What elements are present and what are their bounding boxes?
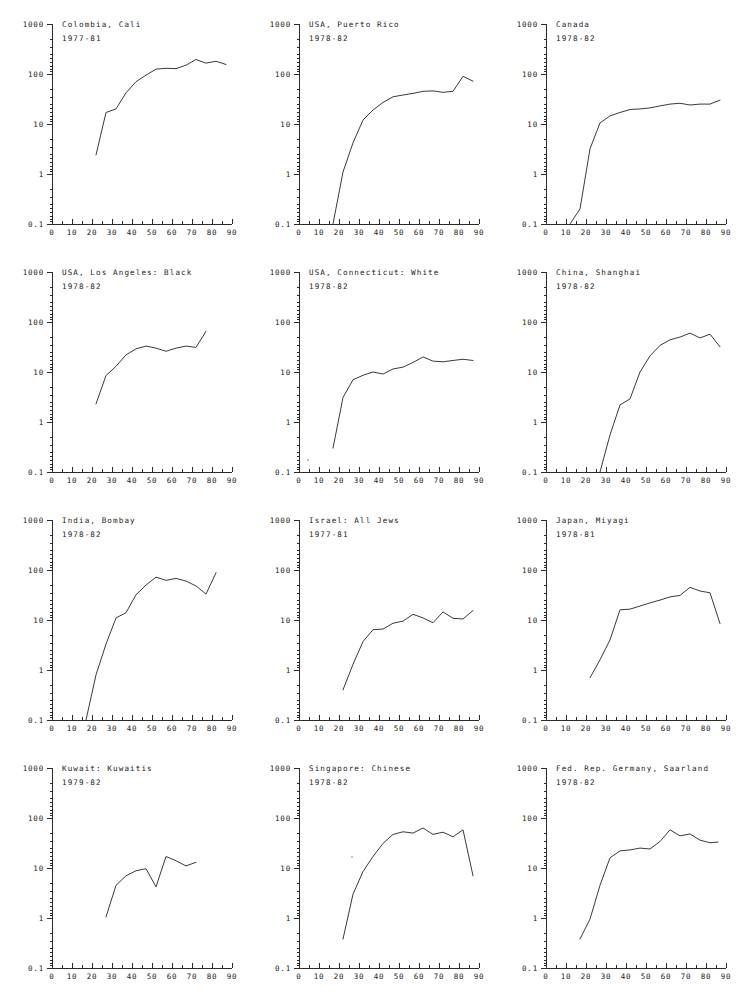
x-tick-label: 70 [434, 476, 445, 485]
y-tick-label: 0.1 [522, 220, 538, 229]
panel-title: Singapore: Chinese [309, 764, 411, 773]
x-tick-label: 0 [49, 972, 54, 981]
panel-title: Kuwait: Kuwaitis [62, 764, 153, 773]
x-tick-label: 30 [354, 228, 365, 237]
axis-lines [546, 520, 726, 720]
chart-plot-area: 10001001010.10102030405060708090China, S… [494, 248, 741, 496]
panel-subtitle: 1977-81 [62, 34, 102, 43]
chart-plot-area: 10001001010.10102030405060708090India, B… [0, 496, 247, 744]
y-tick-label: 1 [533, 418, 538, 427]
y-tick-label: 100 [522, 566, 538, 575]
x-tick-label: 90 [474, 476, 485, 485]
x-tick-label: 30 [354, 724, 365, 733]
x-tick-label: 50 [147, 228, 158, 237]
x-tick-label: 20 [581, 476, 592, 485]
y-tick-label: 100 [28, 318, 44, 327]
x-tick-label: 10 [561, 724, 572, 733]
x-tick-label: 30 [601, 972, 612, 981]
x-tick-label: 50 [147, 724, 158, 733]
y-tick-label: 100 [275, 70, 291, 79]
panel-title: Israel: All Jews [309, 516, 400, 525]
chart-plot-area: 10001001010.10102030405060708090USA, Los… [0, 248, 247, 496]
x-tick-label: 0 [49, 228, 54, 237]
chart-plot-area: 10001001010.10102030405060708090USA, Pue… [247, 0, 494, 248]
panel-title: USA, Connecticut: White [309, 268, 439, 277]
x-tick-label: 80 [454, 476, 465, 485]
panel-title: Fed. Rep. Germany, Saarland [556, 764, 709, 773]
data-curve [570, 100, 720, 224]
y-tick-label: 1000 [517, 20, 538, 29]
x-tick-label: 50 [641, 972, 652, 981]
y-tick-label: 1 [533, 914, 538, 923]
y-tick-label: 100 [275, 318, 291, 327]
x-tick-label: 10 [561, 228, 572, 237]
x-tick-label: 70 [434, 972, 445, 981]
x-tick-label: 70 [187, 228, 198, 237]
panel-subtitle: 1978-82 [62, 282, 102, 291]
x-tick-label: 80 [454, 972, 465, 981]
x-tick-label: 50 [641, 476, 652, 485]
x-tick-label: 10 [314, 228, 325, 237]
x-tick-label: 60 [414, 228, 425, 237]
y-tick-label: 0.1 [275, 220, 291, 229]
y-tick-label: 1 [39, 170, 44, 179]
y-tick-label: 1 [533, 666, 538, 675]
x-tick-label: 40 [127, 228, 138, 237]
x-tick-label: 70 [187, 972, 198, 981]
y-tick-label: 1000 [517, 764, 538, 773]
data-curve [333, 357, 473, 448]
y-tick-label: 100 [522, 70, 538, 79]
x-tick-label: 40 [621, 972, 632, 981]
x-tick-label: 50 [394, 972, 405, 981]
panel-subtitle: 1978-81 [556, 530, 596, 539]
axis-lines [546, 768, 726, 968]
axis-lines [299, 272, 479, 472]
x-tick-label: 40 [621, 724, 632, 733]
y-tick-label: 10 [280, 616, 291, 625]
y-tick-label: 0.1 [522, 964, 538, 973]
axis-lines [52, 272, 232, 472]
x-tick-label: 40 [127, 972, 138, 981]
panel-subtitle: 1978-82 [309, 34, 349, 43]
x-tick-label: 30 [107, 972, 118, 981]
y-tick-label: 1000 [23, 268, 44, 277]
x-tick-label: 30 [354, 476, 365, 485]
panel-subtitle: 1979-82 [62, 778, 102, 787]
x-tick-label: 80 [207, 228, 218, 237]
panel-subtitle: 1977-81 [309, 530, 349, 539]
y-tick-label: 10 [280, 120, 291, 129]
y-tick-label: 1000 [270, 516, 291, 525]
x-tick-label: 10 [67, 972, 78, 981]
x-tick-label: 90 [227, 228, 238, 237]
x-tick-label: 80 [207, 972, 218, 981]
panel-subtitle: 1978-82 [556, 34, 596, 43]
x-tick-label: 50 [394, 724, 405, 733]
x-tick-label: 50 [394, 476, 405, 485]
x-tick-label: 10 [561, 972, 572, 981]
chart-panel: 10001001010.10102030405060708090Canada19… [494, 0, 741, 248]
x-tick-label: 40 [374, 724, 385, 733]
x-tick-label: 20 [87, 972, 98, 981]
chart-plot-area: 10001001010.10102030405060708090Colombia… [0, 0, 247, 248]
x-tick-label: 20 [581, 228, 592, 237]
x-tick-label: 0 [543, 724, 548, 733]
chart-panel: 10001001010.10102030405060708090Fed. Rep… [494, 744, 741, 992]
x-tick-label: 0 [49, 724, 54, 733]
y-tick-label: 10 [527, 368, 538, 377]
panel-subtitle: 1978-82 [62, 530, 102, 539]
chart-plot-area: 10001001010.10102030405060708090USA, Con… [247, 248, 494, 496]
y-tick-label: 10 [527, 616, 538, 625]
y-tick-label: 1000 [517, 516, 538, 525]
x-tick-label: 90 [721, 972, 732, 981]
x-tick-label: 0 [296, 476, 301, 485]
y-tick-label: 0.1 [28, 220, 44, 229]
panel-subtitle: 1978-82 [309, 282, 349, 291]
x-tick-label: 10 [314, 724, 325, 733]
y-tick-label: 1000 [270, 20, 291, 29]
chart-plot-area: 10001001010.10102030405060708090Japan, M… [494, 496, 741, 744]
chart-panel: 10001001010.10102030405060708090China, S… [494, 248, 741, 496]
x-tick-label: 20 [334, 476, 345, 485]
chart-panel: 10001001010.10102030405060708090Kuwait: … [0, 744, 247, 992]
y-tick-label: 10 [33, 864, 44, 873]
x-tick-label: 10 [314, 476, 325, 485]
